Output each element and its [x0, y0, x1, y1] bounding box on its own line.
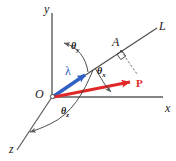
theta-x-label: θx: [97, 66, 106, 79]
x-axis-label: x: [165, 102, 170, 114]
theta-x-subscript: x: [102, 71, 106, 79]
p-vector-label: P: [136, 78, 143, 89]
theta-y-subscript: y: [76, 46, 79, 54]
diagram-canvas: [0, 0, 176, 161]
point-a-label: A: [112, 36, 119, 48]
theta-y-label: θy: [71, 41, 79, 54]
z-axis-label: z: [9, 143, 14, 155]
projection-line-a-to-p: [121, 51, 137, 74]
point-a-marker: [120, 50, 122, 52]
lambda-vector-label: λ: [65, 65, 71, 77]
origin-point-marker: [50, 94, 54, 98]
projection-group: [117, 51, 137, 74]
y-axis-label: y: [44, 3, 49, 15]
theta-z-arc: [30, 70, 93, 132]
theta-z-subscript: z: [66, 111, 69, 119]
theta-z-label: θz: [61, 106, 69, 119]
origin-label: O: [35, 88, 44, 100]
vector-diagram-figure: y x z L A O θy θx θz λ P: [0, 0, 176, 161]
line-l-label: L: [159, 20, 166, 32]
z-axis-line: [17, 97, 52, 150]
